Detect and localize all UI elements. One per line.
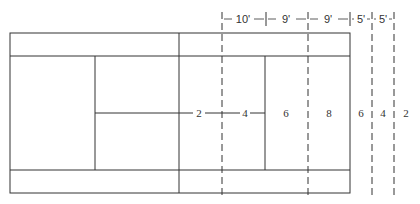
zone-label-1: 2 bbox=[196, 107, 202, 119]
tennis-court-diagram: 10' 9' 9' 5' 5' 2 4 6 8 6 4 2 bbox=[0, 0, 420, 204]
zone-label-4: 8 bbox=[326, 107, 332, 119]
zone-label-6: 4 bbox=[380, 107, 386, 119]
dim-label-5: 5' bbox=[379, 13, 387, 25]
dim-label-1: 10' bbox=[236, 13, 250, 25]
dim-label-3: 9' bbox=[324, 13, 332, 25]
zone-label-5: 6 bbox=[358, 107, 364, 119]
zone-label-7: 2 bbox=[403, 107, 409, 119]
zone-label-3: 6 bbox=[283, 107, 289, 119]
zone-label-2: 4 bbox=[242, 107, 248, 119]
dim-label-4: 5' bbox=[357, 13, 365, 25]
dim-label-2: 9' bbox=[282, 13, 290, 25]
